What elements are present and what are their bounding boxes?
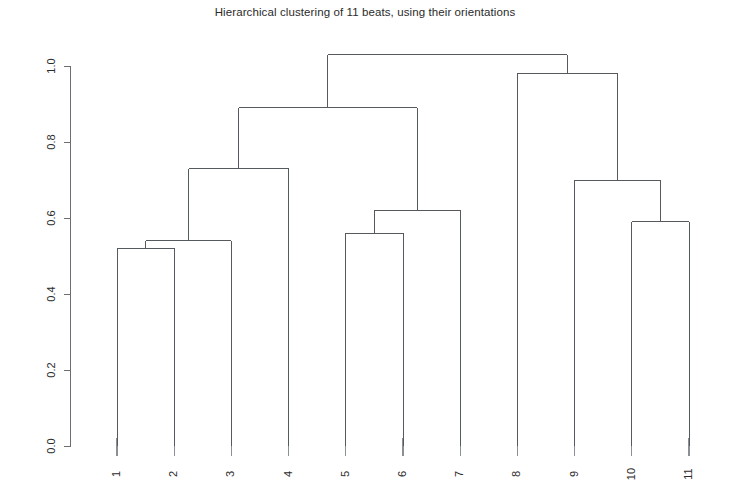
- merge-node-m8: [575, 180, 661, 446]
- dendrogram-canvas: 0.00.20.40.60.81.0 1234567891011: [0, 0, 730, 492]
- leaf-label-4: 4: [282, 471, 294, 477]
- y-tick-label-0.0: 0.0: [45, 438, 57, 453]
- leaf-label-6: 6: [396, 471, 408, 477]
- leaf-label-10: 10: [625, 468, 637, 480]
- merge-node-m6: [239, 108, 418, 211]
- dendrogram-branches: [117, 55, 689, 446]
- leaf-label-8: 8: [510, 471, 522, 477]
- y-axis-ticks: [64, 67, 71, 447]
- leaf-tick-labels: 1234567891011: [110, 468, 694, 480]
- merge-node-m3: [189, 169, 289, 446]
- merge-node-m2: [146, 241, 232, 446]
- leaf-label-9: 9: [568, 471, 580, 477]
- leaf-label-2: 2: [167, 471, 179, 477]
- leaf-label-7: 7: [453, 471, 465, 477]
- merge-node-m10: [328, 55, 568, 108]
- y-axis-tick-labels: 0.00.20.40.60.81.0: [45, 58, 57, 453]
- leaf-label-11: 11: [682, 468, 694, 479]
- merge-node-m5: [374, 210, 460, 446]
- y-tick-label-0.6: 0.6: [45, 210, 57, 225]
- y-tick-label-0.4: 0.4: [45, 286, 57, 301]
- leaf-label-1: 1: [110, 471, 122, 477]
- y-tick-label-1.0: 1.0: [45, 58, 57, 73]
- leaf-label-3: 3: [224, 471, 236, 477]
- merge-node-m9: [517, 74, 617, 446]
- merge-node-m1: [117, 248, 174, 446]
- y-tick-label-0.8: 0.8: [45, 134, 57, 149]
- merge-node-m7: [632, 222, 689, 446]
- y-tick-label-0.2: 0.2: [45, 362, 57, 377]
- leaf-label-5: 5: [339, 471, 351, 477]
- merge-node-m4: [346, 233, 403, 446]
- dendrogram-figure: Hierarchical clustering of 11 beats, usi…: [0, 0, 730, 492]
